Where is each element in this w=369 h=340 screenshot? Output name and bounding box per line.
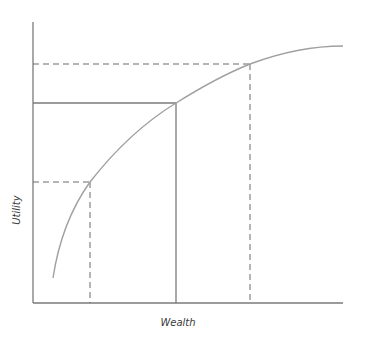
x-axis-label: Wealth — [160, 317, 195, 328]
utility-curve — [53, 46, 343, 278]
y-axis-label: Utility — [11, 194, 22, 224]
utility-wealth-diagram: Wealth Utility — [0, 0, 369, 340]
